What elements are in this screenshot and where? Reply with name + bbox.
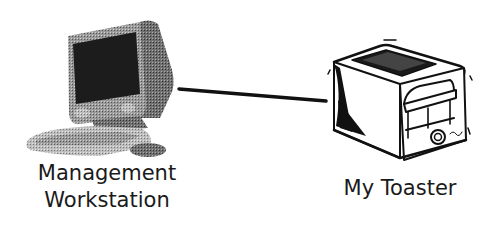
workstation-label: Management Workstation bbox=[7, 160, 207, 214]
workstation-label-line-2: Workstation bbox=[7, 187, 207, 214]
connection-line bbox=[179, 89, 326, 101]
desktop-computer-icon[interactable] bbox=[26, 20, 173, 157]
toaster-label: My Toaster bbox=[300, 175, 500, 202]
toaster-label-line-1: My Toaster bbox=[300, 175, 500, 202]
workstation-label-line-1: Management bbox=[7, 160, 207, 187]
toaster-icon[interactable] bbox=[328, 40, 472, 160]
network-diagram: Management Workstation My Toaster bbox=[0, 0, 501, 233]
